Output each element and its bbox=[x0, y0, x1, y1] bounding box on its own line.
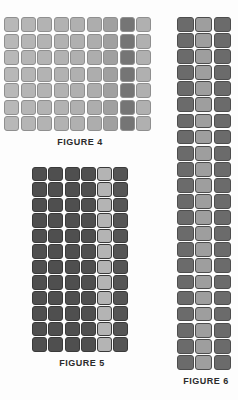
grid-cell bbox=[214, 130, 231, 145]
grid-cell bbox=[21, 17, 36, 32]
grid-cell bbox=[103, 116, 118, 131]
grid-cell bbox=[177, 339, 194, 354]
grid-cell bbox=[87, 17, 102, 32]
grid-cell bbox=[120, 67, 135, 82]
grid-cell bbox=[214, 355, 231, 370]
grid-cell bbox=[120, 34, 135, 49]
grid-cell bbox=[37, 83, 52, 98]
grid-cell bbox=[113, 244, 128, 258]
grid-cell bbox=[97, 306, 112, 320]
grid-cell bbox=[97, 229, 112, 243]
grid-cell bbox=[103, 34, 118, 49]
figure-6-caption: FIGURE 6 bbox=[177, 376, 235, 386]
grid-cell bbox=[81, 229, 96, 243]
grid-cell bbox=[32, 260, 47, 274]
grid-cell bbox=[21, 50, 36, 65]
grid-cell bbox=[48, 275, 63, 289]
grid-cell bbox=[120, 116, 135, 131]
grid-cell bbox=[177, 49, 194, 64]
grid-cell bbox=[97, 275, 112, 289]
grid-cell bbox=[81, 291, 96, 305]
grid-cell bbox=[214, 114, 231, 129]
grid-cell bbox=[48, 337, 63, 351]
grid-cell bbox=[21, 116, 36, 131]
grid-cell bbox=[32, 322, 47, 336]
grid-cell bbox=[70, 83, 85, 98]
grid-cell bbox=[113, 337, 128, 351]
grid-cell bbox=[48, 291, 63, 305]
grid-cell bbox=[214, 339, 231, 354]
grid-cell bbox=[214, 242, 231, 257]
grid-cell bbox=[195, 33, 212, 48]
grid-cell bbox=[214, 81, 231, 96]
grid-cell bbox=[136, 50, 151, 65]
figure-6-grid bbox=[177, 17, 235, 370]
grid-cell bbox=[81, 275, 96, 289]
grid-cell bbox=[177, 97, 194, 112]
figure-sheet: FIGURE 4 FIGURE 5 FIGURE 6 bbox=[0, 0, 238, 400]
grid-cell bbox=[54, 50, 69, 65]
grid-cell bbox=[65, 337, 80, 351]
grid-cell bbox=[195, 162, 212, 177]
grid-cell bbox=[214, 258, 231, 273]
grid-cell bbox=[177, 242, 194, 257]
grid-cell bbox=[54, 116, 69, 131]
grid-cell bbox=[177, 130, 194, 145]
grid-cell bbox=[4, 83, 19, 98]
grid-cell bbox=[37, 67, 52, 82]
grid-cell bbox=[54, 17, 69, 32]
grid-cell bbox=[87, 100, 102, 115]
grid-cell bbox=[4, 17, 19, 32]
grid-cell bbox=[81, 167, 96, 181]
grid-cell bbox=[214, 146, 231, 161]
grid-cell bbox=[120, 50, 135, 65]
grid-cell bbox=[195, 307, 212, 322]
grid-cell bbox=[54, 67, 69, 82]
grid-cell bbox=[195, 339, 212, 354]
grid-cell bbox=[214, 178, 231, 193]
grid-cell bbox=[21, 67, 36, 82]
grid-cell bbox=[97, 260, 112, 274]
grid-cell bbox=[65, 244, 80, 258]
grid-cell bbox=[195, 275, 212, 290]
grid-cell bbox=[177, 210, 194, 225]
grid-cell bbox=[177, 323, 194, 338]
grid-cell bbox=[81, 322, 96, 336]
grid-cell bbox=[177, 178, 194, 193]
grid-cell bbox=[214, 65, 231, 80]
grid-cell bbox=[32, 182, 47, 196]
grid-cell bbox=[214, 49, 231, 64]
grid-cell bbox=[97, 322, 112, 336]
grid-cell bbox=[113, 275, 128, 289]
grid-cell bbox=[48, 322, 63, 336]
grid-cell bbox=[177, 81, 194, 96]
grid-cell bbox=[113, 182, 128, 196]
figure-6-block: FIGURE 6 bbox=[177, 17, 235, 386]
grid-cell bbox=[103, 67, 118, 82]
grid-cell bbox=[87, 83, 102, 98]
grid-cell bbox=[4, 100, 19, 115]
grid-cell bbox=[195, 114, 212, 129]
grid-cell bbox=[177, 17, 194, 32]
figure-4-grid bbox=[4, 17, 156, 131]
grid-cell bbox=[21, 83, 36, 98]
grid-cell bbox=[65, 322, 80, 336]
grid-cell bbox=[195, 210, 212, 225]
grid-cell bbox=[177, 275, 194, 290]
grid-cell bbox=[81, 244, 96, 258]
grid-cell bbox=[32, 198, 47, 212]
grid-cell bbox=[214, 17, 231, 32]
grid-cell bbox=[136, 100, 151, 115]
grid-cell bbox=[70, 100, 85, 115]
grid-cell bbox=[97, 244, 112, 258]
grid-cell bbox=[32, 244, 47, 258]
grid-cell bbox=[214, 291, 231, 306]
grid-cell bbox=[177, 258, 194, 273]
grid-cell bbox=[65, 229, 80, 243]
grid-cell bbox=[195, 323, 212, 338]
grid-cell bbox=[103, 50, 118, 65]
grid-cell bbox=[70, 50, 85, 65]
grid-cell bbox=[48, 198, 63, 212]
grid-cell bbox=[81, 306, 96, 320]
grid-cell bbox=[177, 114, 194, 129]
